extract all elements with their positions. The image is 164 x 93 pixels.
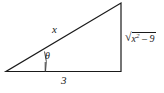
opposite-side-label: √ x2 – 9 bbox=[125, 32, 156, 44]
base-label: 3 bbox=[61, 75, 67, 86]
radicand-expression: x2 – 9 bbox=[132, 32, 156, 44]
radical-sign: √ bbox=[125, 32, 132, 43]
triangle-figure: x 3 θ √ x2 – 9 bbox=[0, 0, 164, 93]
angle-theta-label: θ bbox=[45, 51, 50, 61]
radicand-operator: – bbox=[142, 33, 147, 44]
hypotenuse-label: x bbox=[52, 24, 57, 35]
radicand-exponent: 2 bbox=[136, 32, 140, 40]
triangle-outline bbox=[6, 3, 121, 72]
radicand-constant: 9 bbox=[150, 33, 155, 44]
triangle-drawing bbox=[0, 0, 164, 93]
